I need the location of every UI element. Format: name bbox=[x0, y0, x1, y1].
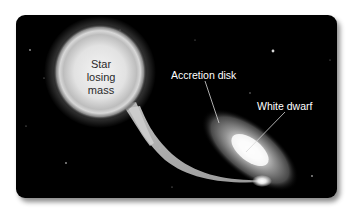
accretion-disk-label: Accretion disk bbox=[171, 69, 236, 81]
star-label-line-3: mass bbox=[70, 84, 132, 97]
white-dwarf-label: White dwarf bbox=[257, 100, 312, 112]
star-label-line-1: Star bbox=[70, 58, 132, 71]
star-label-line-2: losing bbox=[70, 71, 132, 84]
star-losing-mass-label: Star losing mass bbox=[70, 58, 132, 97]
